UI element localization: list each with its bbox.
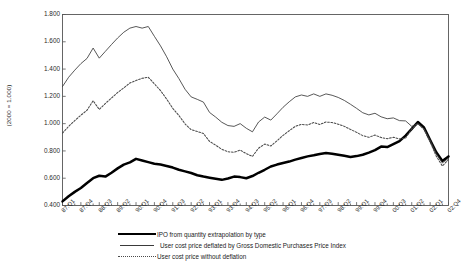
- legend-label: IPO from quantity extrapolation by type: [156, 231, 266, 238]
- legend-label: User cost price without deflation: [156, 253, 246, 260]
- chart-legend: IPO from quantity extrapolation by typeU…: [118, 229, 448, 262]
- chart-figure: (2000 = 1.000) 0.4000.6000.8001.0001.200…: [0, 0, 467, 269]
- legend-label: User cost price deflated by Gross Domest…: [156, 242, 346, 249]
- legend-swatch-thin-solid-icon: [118, 241, 156, 251]
- legend-swatch-thick-solid-icon: [118, 230, 156, 240]
- plot-frame: [63, 15, 449, 206]
- legend-swatch-dotted-icon: [118, 252, 156, 262]
- legend-item: User cost price deflated by Gross Domest…: [118, 240, 448, 251]
- legend-item: IPO from quantity extrapolation by type: [118, 229, 448, 240]
- legend-item: User cost price without deflation: [118, 251, 448, 262]
